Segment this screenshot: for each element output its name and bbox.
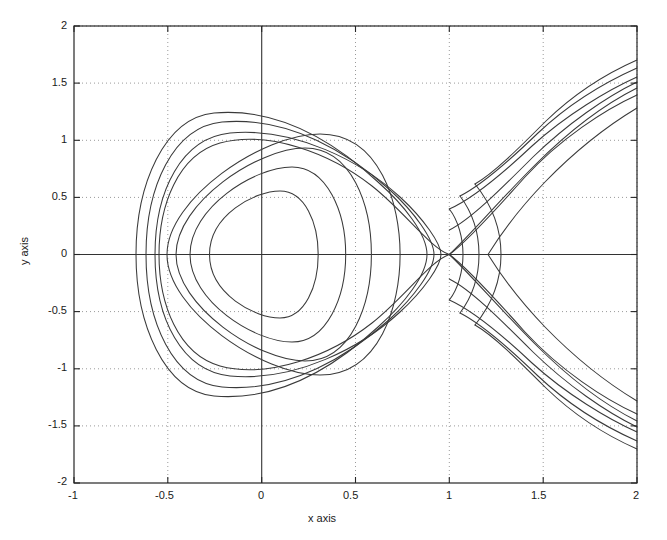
y-axis-title: y axis — [18, 229, 30, 273]
plot-canvas — [0, 0, 667, 540]
contour-plot-figure: 2 1.5 1 0.5 0 -0.5 -1 -1.5 -2 -1 -0.5 0 … — [0, 0, 667, 540]
y-tick-label: -0.5 — [48, 304, 67, 316]
y-tick-label: -1.5 — [48, 418, 67, 430]
x-tick-label: 0.5 — [343, 489, 358, 501]
x-tick-label: -1 — [68, 489, 78, 501]
y-tick-label: 0.5 — [52, 190, 67, 202]
y-tick-label: 2 — [61, 19, 67, 31]
x-tick-label: 2 — [633, 489, 639, 501]
y-tick-label: -2 — [57, 475, 67, 487]
x-tick-label: -0.5 — [155, 489, 174, 501]
x-tick-label: 1 — [446, 489, 452, 501]
x-axis-title: x axis — [308, 512, 336, 524]
x-tick-label: 1.5 — [531, 489, 546, 501]
y-tick-label: 1.5 — [52, 76, 67, 88]
y-tick-label: 0 — [61, 247, 67, 259]
y-tick-label: 1 — [61, 133, 67, 145]
x-tick-label: 0 — [258, 489, 264, 501]
y-tick-label: -1 — [57, 361, 67, 373]
